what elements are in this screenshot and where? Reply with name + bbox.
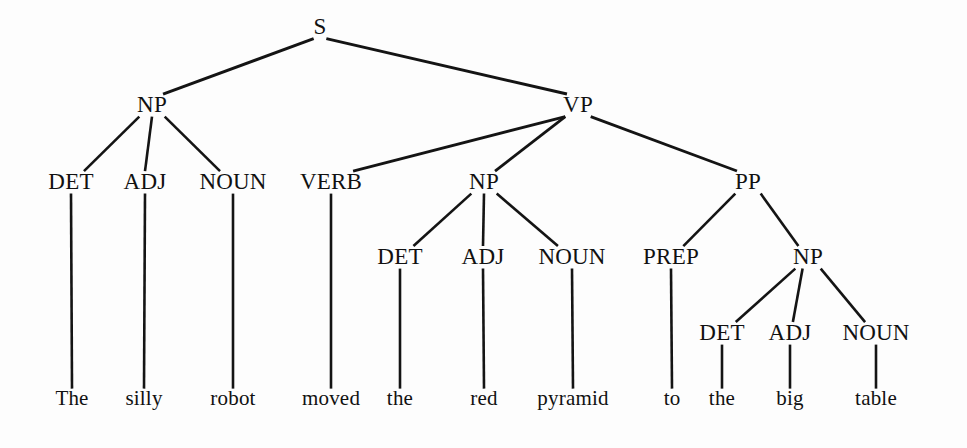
tree-nonterminal-label: NP	[469, 169, 499, 194]
parse-tree-figure: SNPVPDETADJNOUNVERBNPPPDETADJNOUNPREPNPD…	[0, 0, 967, 448]
tree-edge	[144, 194, 145, 389]
tree-edge	[71, 194, 72, 389]
tree-preterminal-label: VERB	[300, 169, 362, 194]
tree-edge	[497, 194, 558, 246]
parse-tree-canvas: SNPVPDETADJNOUNVERBNPPPDETADJNOUNPREPNPD…	[0, 0, 967, 448]
tree-edge-layer	[71, 39, 876, 389]
tree-edge	[821, 269, 865, 322]
tree-nonterminal-label: S	[314, 14, 327, 39]
tree-preterminal-label: PREP	[643, 244, 699, 269]
tree-nonterminal-label: VP	[563, 92, 593, 117]
tree-edge	[683, 194, 735, 246]
tree-edge	[326, 39, 567, 94]
tree-preterminal-label: ADJ	[124, 169, 167, 194]
tree-edge	[413, 194, 471, 246]
tree-edge	[483, 269, 484, 389]
tree-preterminal-label: DET	[377, 244, 422, 269]
tree-terminal-word: pyramid	[537, 386, 609, 410]
tree-terminal-word: silly	[125, 386, 162, 410]
tree-preterminal-label: NOUN	[538, 244, 605, 269]
tree-edge	[572, 269, 573, 389]
tree-edge	[793, 269, 803, 322]
tree-terminal-word: big	[776, 386, 804, 410]
tree-edge	[483, 194, 484, 246]
tree-preterminal-label: DET	[48, 169, 93, 194]
tree-edge	[761, 194, 799, 246]
tree-nonterminal-label: NP	[793, 244, 823, 269]
tree-edge	[671, 269, 672, 389]
tree-edge	[145, 117, 152, 171]
tree-terminal-word: the	[387, 386, 413, 410]
tree-nonterminal-label: PP	[735, 169, 761, 194]
tree-edge	[163, 39, 314, 94]
tree-terminal-word: The	[55, 386, 88, 410]
tree-preterminal-label: ADJ	[462, 244, 505, 269]
tree-preterminal-label: DET	[699, 320, 744, 345]
tree-terminal-word: red	[470, 386, 498, 410]
tree-nonterminal-label: NP	[137, 92, 167, 117]
tree-edge	[591, 117, 737, 171]
tree-terminal-word: moved	[302, 386, 360, 410]
tree-edge	[84, 117, 139, 171]
tree-preterminal-label: NOUN	[842, 320, 909, 345]
tree-preterminal-label: NOUN	[199, 169, 266, 194]
tree-terminal-word: robot	[210, 386, 255, 410]
tree-terminal-word: the	[709, 386, 735, 410]
tree-edge	[165, 117, 220, 171]
tree-edge	[736, 269, 796, 322]
tree-edge	[353, 117, 565, 171]
tree-preterminal-label: ADJ	[769, 320, 812, 345]
tree-terminal-word: table	[855, 386, 897, 410]
tree-terminal-word: to	[664, 386, 681, 410]
